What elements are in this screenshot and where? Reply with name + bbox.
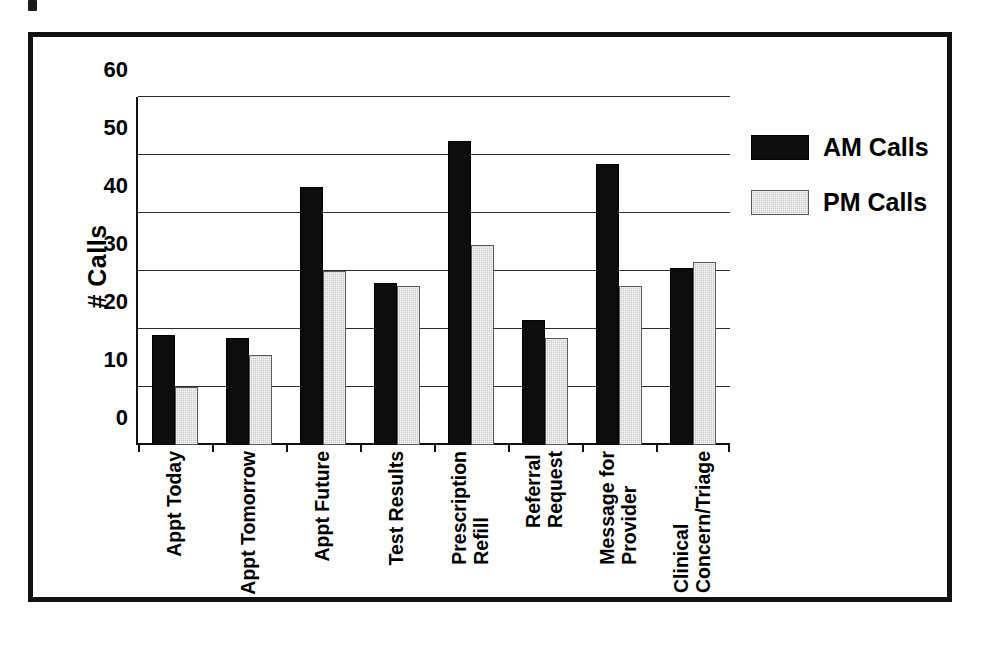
x-label-cell: Appt Future xyxy=(286,451,360,601)
bar-group xyxy=(508,97,582,445)
chart-frame: # Calls 0102030405060 Appt TodayAppt Tom… xyxy=(28,32,952,602)
bar-group xyxy=(212,97,286,445)
bar-pm[interactable] xyxy=(619,286,642,446)
bar-pm[interactable] xyxy=(323,271,346,445)
plot-area: 0102030405060 xyxy=(138,97,730,445)
x-label-cell: Message forProvider xyxy=(582,451,656,601)
bar-am[interactable] xyxy=(300,187,323,445)
bar-am[interactable] xyxy=(374,283,397,445)
bar-pm[interactable] xyxy=(249,355,272,445)
bar-group xyxy=(582,97,656,445)
bar-group xyxy=(434,97,508,445)
x-tick-label-4: PrescriptionRefill xyxy=(449,451,493,565)
bar-pm[interactable] xyxy=(175,387,198,445)
x-label-cell: ReferralRequest xyxy=(508,451,582,601)
bar-group xyxy=(138,97,212,445)
bar-am[interactable] xyxy=(522,320,545,445)
x-tick-label-line2: Concern/Triage xyxy=(693,451,715,593)
chart-canvas: # Calls 0102030405060 Appt TodayAppt Tom… xyxy=(33,37,947,597)
y-tick-label-50: 50 xyxy=(104,115,128,141)
bar-am[interactable] xyxy=(152,335,175,445)
x-tick-label-3: Test Results xyxy=(386,451,408,566)
x-label-cell: ClinicalConcern/Triage xyxy=(656,451,730,601)
bar-am[interactable] xyxy=(596,164,619,445)
y-tick-label-10: 10 xyxy=(104,347,128,373)
x-tick-label-7: ClinicalConcern/Triage xyxy=(671,451,715,593)
x-tick-label-0: Appt Today xyxy=(164,451,186,557)
bar-group xyxy=(286,97,360,445)
bar-group xyxy=(360,97,434,445)
bar-group xyxy=(656,97,730,445)
x-tick-label-1: Appt Tomorrow xyxy=(238,451,260,595)
page-ink-mark xyxy=(28,0,37,11)
legend-swatch-am xyxy=(751,135,809,160)
y-tick-label-30: 30 xyxy=(104,231,128,257)
x-label-cell: Appt Tomorrow xyxy=(212,451,286,601)
y-tick-label-60: 60 xyxy=(104,57,128,83)
y-axis-title: # Calls xyxy=(83,187,112,347)
x-tick-label-6: Message forProvider xyxy=(597,451,641,565)
legend-label: AM Calls xyxy=(823,133,929,162)
x-tick-label-line2: Refill xyxy=(471,451,493,565)
bar-am[interactable] xyxy=(670,268,693,445)
x-tick-label-line2: Request xyxy=(545,451,567,528)
bar-am[interactable] xyxy=(226,338,249,445)
bar-pm[interactable] xyxy=(545,338,568,445)
legend-swatch-pm xyxy=(751,190,809,215)
x-tick-label-2: Appt Future xyxy=(312,451,334,561)
y-tick-label-0: 0 xyxy=(116,405,128,431)
x-label-cell: PrescriptionRefill xyxy=(434,451,508,601)
bar-groups xyxy=(138,97,730,445)
bar-pm[interactable] xyxy=(471,245,494,445)
x-label-cell: Appt Today xyxy=(138,451,212,601)
x-label-cell: Test Results xyxy=(360,451,434,601)
bar-pm[interactable] xyxy=(693,262,716,445)
legend-item[interactable]: PM Calls xyxy=(751,188,941,217)
figure-page: # Calls 0102030405060 Appt TodayAppt Tom… xyxy=(0,0,981,653)
bar-pm[interactable] xyxy=(397,286,420,446)
x-tick-label-5: ReferralRequest xyxy=(523,451,567,528)
bar-am[interactable] xyxy=(448,141,471,446)
x-tick-labels: Appt TodayAppt TomorrowAppt FutureTest R… xyxy=(138,451,730,601)
y-tick-label-40: 40 xyxy=(104,173,128,199)
x-tick-label-line2: Provider xyxy=(619,451,641,565)
chart-legend: AM CallsPM Calls xyxy=(751,133,941,243)
legend-label: PM Calls xyxy=(823,188,927,217)
y-tick-label-20: 20 xyxy=(104,289,128,315)
legend-item[interactable]: AM Calls xyxy=(751,133,941,162)
